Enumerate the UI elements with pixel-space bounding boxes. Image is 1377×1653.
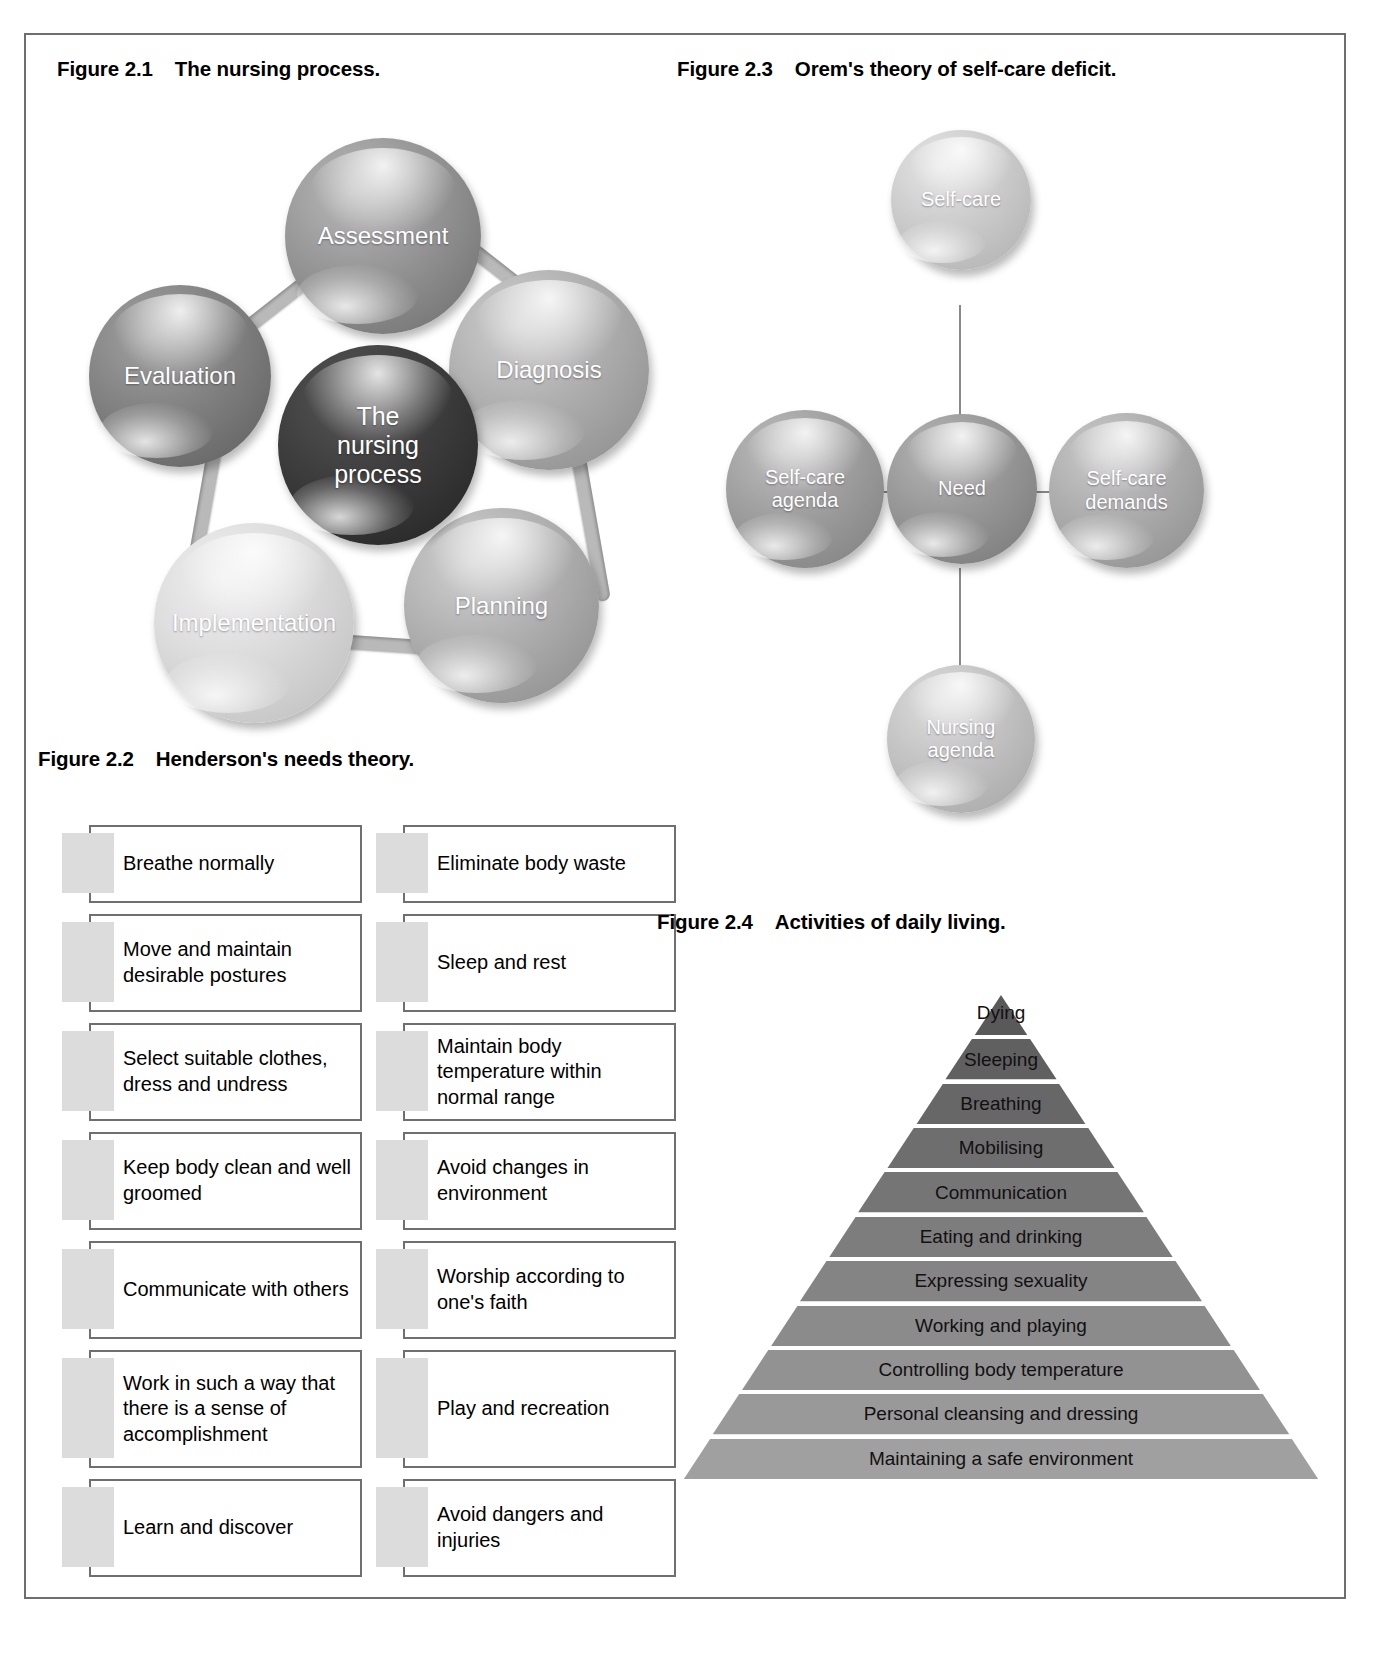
- need-item[interactable]: Breathe normally: [62, 825, 362, 903]
- orb-need[interactable]: Need: [887, 414, 1037, 564]
- figure-2-4-number: Figure 2.4: [657, 910, 753, 933]
- orb-self-care-label: Self-care: [921, 188, 1001, 211]
- need-item[interactable]: Play and recreation: [376, 1350, 676, 1468]
- need-item[interactable]: Eliminate body waste: [376, 825, 676, 903]
- need-item-label: Maintain body temperature within normal …: [437, 1034, 666, 1111]
- need-item-label: Communicate with others: [123, 1277, 349, 1303]
- need-item[interactable]: Learn and discover: [62, 1479, 362, 1577]
- pyramid-level[interactable]: Working and playing: [681, 1306, 1321, 1346]
- need-item-tab: [376, 1249, 428, 1329]
- figure-2-3-title: Orem's theory of self-care deficit.: [795, 57, 1117, 80]
- need-item-label: Avoid dangers and injuries: [437, 1502, 666, 1553]
- need-item-tab: [62, 833, 114, 893]
- figure-2-1-title: The nursing process.: [175, 57, 380, 80]
- orb-self-care-agenda-line1: Self-care: [765, 466, 845, 488]
- orb-evaluation[interactable]: Evaluation: [89, 285, 271, 467]
- figure-2-1-diagram: Assessment Diagnosis Planning Implementa…: [81, 130, 701, 760]
- needs-column-right: Eliminate body wasteSleep and restMainta…: [376, 825, 676, 1588]
- need-item[interactable]: Maintain body temperature within normal …: [376, 1023, 676, 1121]
- pyramid-level-label: Controlling body temperature: [878, 1359, 1123, 1381]
- figure-2-2-diagram: Breathe normallyMove and maintain desira…: [62, 825, 694, 1587]
- need-item[interactable]: Communicate with others: [62, 1241, 362, 1339]
- need-item-tab: [62, 1358, 114, 1458]
- orb-nursing-process-center[interactable]: The nursing process: [278, 345, 478, 545]
- orb-self-care-demands-line1: Self-care: [1086, 467, 1166, 489]
- need-item[interactable]: Work in such a way that there is a sense…: [62, 1350, 362, 1468]
- need-item[interactable]: Avoid dangers and injuries: [376, 1479, 676, 1577]
- orb-nursing-agenda-line1: Nursing: [927, 716, 996, 738]
- need-item[interactable]: Worship according to one's faith: [376, 1241, 676, 1339]
- figure-2-2-caption: Figure 2.2Henderson's needs theory.: [38, 747, 414, 771]
- pyramid-level-label: Expressing sexuality: [914, 1270, 1087, 1292]
- pyramid-level-label: Eating and drinking: [920, 1226, 1083, 1248]
- orb-self-care-agenda[interactable]: Self-care agenda: [726, 410, 884, 568]
- orb-center-line1: The: [356, 402, 399, 430]
- pyramid-level[interactable]: Expressing sexuality: [681, 1261, 1321, 1301]
- need-item-box: Select suitable clothes, dress and undre…: [89, 1023, 362, 1121]
- need-item-label: Breathe normally: [123, 851, 274, 877]
- need-item-box: Breathe normally: [89, 825, 362, 903]
- orb-assessment-label: Assessment: [318, 222, 449, 250]
- figure-2-3-number: Figure 2.3: [677, 57, 773, 80]
- need-item-tab: [62, 1140, 114, 1220]
- link-need-nursingagenda: [959, 568, 961, 668]
- pyramid-level[interactable]: Sleeping: [681, 1039, 1321, 1079]
- pyramid-level-label: Personal cleansing and dressing: [864, 1403, 1139, 1425]
- need-item[interactable]: Avoid changes in environment: [376, 1132, 676, 1230]
- need-item-label: Move and maintain desirable postures: [123, 937, 352, 988]
- need-item-tab: [62, 1487, 114, 1567]
- orb-nursing-agenda-line2: agenda: [928, 739, 995, 761]
- need-item-box: Avoid changes in environment: [403, 1132, 676, 1230]
- orb-diagnosis[interactable]: Diagnosis: [449, 270, 649, 470]
- orb-self-care[interactable]: Self-care: [891, 130, 1031, 270]
- orb-center-label: The nursing process: [334, 402, 422, 489]
- link-selfcare-need: [959, 305, 961, 415]
- page-frame: Figure 2.1The nursing process. Assessmen…: [24, 33, 1346, 1599]
- need-item-tab: [376, 1358, 428, 1458]
- need-item-label: Sleep and rest: [437, 950, 566, 976]
- orb-evaluation-label: Evaluation: [124, 362, 236, 390]
- need-item[interactable]: Select suitable clothes, dress and undre…: [62, 1023, 362, 1121]
- pyramid-level[interactable]: Eating and drinking: [681, 1217, 1321, 1257]
- figure-2-4-title: Activities of daily living.: [775, 910, 1006, 933]
- need-item-tab: [376, 922, 428, 1002]
- orb-planning-label: Planning: [455, 592, 548, 620]
- pyramid-level[interactable]: Dying: [681, 995, 1321, 1035]
- figure-2-1-number: Figure 2.1: [57, 57, 153, 80]
- need-item[interactable]: Sleep and rest: [376, 914, 676, 1012]
- pyramid-level[interactable]: Maintaining a safe environment: [681, 1439, 1321, 1479]
- pyramid-level[interactable]: Controlling body temperature: [681, 1350, 1321, 1390]
- figure-2-4-caption: Figure 2.4Activities of daily living.: [657, 910, 1006, 934]
- orb-planning[interactable]: Planning: [404, 508, 599, 703]
- orb-self-care-agenda-label: Self-care agenda: [765, 466, 845, 512]
- orb-self-care-demands-label: Self-care demands: [1085, 467, 1167, 513]
- pyramid-level-label: Mobilising: [959, 1137, 1043, 1159]
- need-item-label: Learn and discover: [123, 1515, 293, 1541]
- need-item-tab: [62, 922, 114, 1002]
- pyramid-level[interactable]: Breathing: [681, 1084, 1321, 1124]
- orb-self-care-agenda-line2: agenda: [772, 489, 839, 511]
- orb-need-label: Need: [938, 477, 986, 500]
- need-item-box: Keep body clean and well groomed: [89, 1132, 362, 1230]
- need-item-box: Avoid dangers and injuries: [403, 1479, 676, 1577]
- orb-assessment[interactable]: Assessment: [285, 138, 481, 334]
- need-item-tab: [62, 1031, 114, 1111]
- need-item[interactable]: Move and maintain desirable postures: [62, 914, 362, 1012]
- pyramid-level[interactable]: Mobilising: [681, 1128, 1321, 1168]
- pyramid-level[interactable]: Communication: [681, 1172, 1321, 1212]
- need-item-tab: [376, 1140, 428, 1220]
- need-item-tab: [376, 1487, 428, 1567]
- orb-diagnosis-label: Diagnosis: [496, 356, 601, 384]
- need-item-label: Worship according to one's faith: [437, 1264, 666, 1315]
- need-item-box: Work in such a way that there is a sense…: [89, 1350, 362, 1468]
- orb-center-line3: process: [334, 460, 422, 488]
- need-item-box: Eliminate body waste: [403, 825, 676, 903]
- orb-implementation[interactable]: Implementation: [154, 523, 354, 723]
- need-item-tab: [376, 833, 428, 893]
- figure-2-2-title: Henderson's needs theory.: [156, 747, 414, 770]
- need-item[interactable]: Keep body clean and well groomed: [62, 1132, 362, 1230]
- orb-self-care-demands[interactable]: Self-care demands: [1049, 413, 1204, 568]
- pyramid-level[interactable]: Personal cleansing and dressing: [681, 1394, 1321, 1434]
- adl-pyramid: DyingSleepingBreathingMobilisingCommunic…: [681, 995, 1321, 1485]
- orb-nursing-agenda[interactable]: Nursing agenda: [887, 665, 1035, 813]
